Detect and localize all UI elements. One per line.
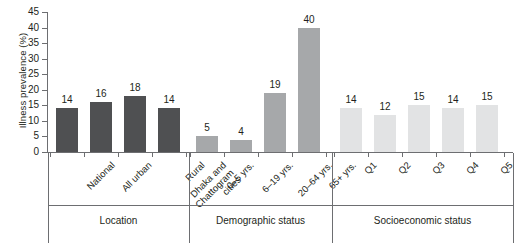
x-tick-mark: [190, 152, 191, 157]
x-tick-mark: [118, 152, 119, 157]
x-tick-mark: [368, 152, 369, 157]
bar-value-label: 15: [468, 92, 506, 102]
bar-slot: 14: [438, 12, 468, 152]
y-tick-label: 20: [14, 85, 39, 95]
group-label: Location: [48, 215, 189, 226]
bar-slot: 14: [154, 12, 184, 152]
bar[interactable]: [264, 93, 286, 152]
bar[interactable]: [408, 105, 430, 152]
x-tick-mark: [186, 152, 187, 157]
x-tick-mark: [436, 152, 437, 157]
x-tick-mark: [504, 152, 505, 157]
bar[interactable]: [298, 28, 320, 152]
bar-value-label: 16: [82, 89, 120, 99]
plot-area: 141618145419401412151415: [47, 12, 513, 152]
x-tick-mark: [292, 152, 293, 157]
bar-value-label: 14: [48, 95, 86, 105]
bar-value-label: 19: [256, 80, 294, 90]
x-tick-mark: [334, 152, 335, 157]
bar[interactable]: [90, 102, 112, 152]
group-separator-line: [332, 153, 333, 243]
x-category-label: 6–19 yrs.: [260, 160, 295, 195]
x-tick-mark: [50, 152, 51, 157]
bar-value-label: 12: [366, 102, 404, 112]
bar-value-label: 14: [332, 95, 370, 105]
x-axis-line: [47, 152, 513, 153]
bar-slot: 12: [370, 12, 400, 152]
group-bracket-top-line: [189, 205, 332, 206]
y-tick-label: 10: [14, 116, 39, 126]
x-tick-mark: [152, 152, 153, 157]
bar-value-label: 15: [400, 92, 438, 102]
bar[interactable]: [124, 96, 146, 152]
bar-slot: 15: [404, 12, 434, 152]
bar-slot: 15: [472, 12, 502, 152]
bar[interactable]: [56, 108, 78, 152]
x-tick-mark: [326, 152, 327, 157]
x-category-label: National: [85, 160, 117, 192]
bar[interactable]: [196, 136, 218, 152]
group-label: Socioeconomic status: [332, 215, 513, 226]
x-tick-mark: [258, 152, 259, 157]
group-separator-line: [513, 153, 514, 243]
group-bracket-top-line: [332, 205, 513, 206]
bar-slot: 16: [86, 12, 116, 152]
group-bracket-top-line: [48, 205, 189, 206]
bar[interactable]: [340, 108, 362, 152]
bar[interactable]: [374, 115, 396, 152]
x-category-label: Q1: [363, 160, 379, 176]
x-category-label: All urban: [120, 160, 154, 194]
x-tick-mark: [84, 152, 85, 157]
bar-value-label: 5: [188, 123, 226, 133]
bar-slot: 18: [120, 12, 150, 152]
group-separator-line: [189, 153, 190, 243]
y-tick-label: 25: [14, 69, 39, 79]
bar[interactable]: [442, 108, 464, 152]
group-label: Demographic status: [189, 215, 332, 226]
x-category-label: Q3: [431, 160, 447, 176]
x-tick-mark: [470, 152, 471, 157]
x-category-label: Q2: [397, 160, 413, 176]
bar-slot: 19: [260, 12, 290, 152]
bar-slot: 40: [294, 12, 324, 152]
group-separator-line: [48, 153, 49, 243]
bar-chart: Illness prevalence (%) 45403530252015105…: [0, 0, 516, 247]
x-tick-mark: [402, 152, 403, 157]
bar[interactable]: [476, 105, 498, 152]
x-tick-mark: [224, 152, 225, 157]
bar[interactable]: [230, 140, 252, 152]
bar-value-label: 4: [222, 127, 260, 137]
bar-value-label: 14: [434, 95, 472, 105]
x-category-label: Q4: [465, 160, 481, 176]
y-tick-label: 0: [14, 147, 39, 157]
bar-slot: 4: [226, 12, 256, 152]
bar-slot: 14: [336, 12, 366, 152]
y-tick-label: 35: [14, 38, 39, 48]
y-tick-label: 5: [14, 131, 39, 141]
y-tick-label: 40: [14, 23, 39, 33]
bar-slot: 14: [52, 12, 82, 152]
y-tick-label: 30: [14, 54, 39, 64]
y-tick-label: 45: [14, 7, 39, 17]
bar-value-label: 18: [116, 83, 154, 93]
bar-value-label: 40: [290, 15, 328, 25]
y-tick-label: 15: [14, 100, 39, 110]
bar-slot: 5: [192, 12, 222, 152]
bar-value-label: 14: [150, 95, 188, 105]
bar[interactable]: [158, 108, 180, 152]
